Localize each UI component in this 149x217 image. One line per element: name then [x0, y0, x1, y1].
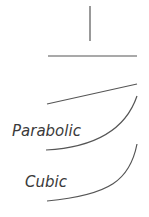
parabolic-label: Parabolic [12, 124, 81, 139]
diagram-canvas [0, 0, 149, 217]
cubic-label: Cubic [25, 175, 67, 190]
linear-line [47, 84, 137, 104]
